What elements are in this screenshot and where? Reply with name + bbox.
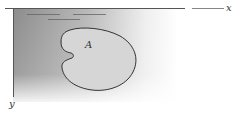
diagram: A x y bbox=[0, 0, 240, 116]
diagram-canvas bbox=[0, 0, 240, 116]
x-axis-label: x bbox=[226, 3, 232, 13]
region-a-label: A bbox=[85, 40, 92, 50]
y-axis-label: y bbox=[9, 99, 15, 109]
